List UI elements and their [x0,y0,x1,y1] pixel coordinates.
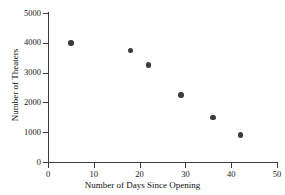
y-tick-label: 1000 [1,128,41,137]
x-tick-label: 10 [79,170,109,179]
x-tick-label: 30 [170,170,200,179]
x-axis-title: Number of Days Since Opening [0,180,285,190]
data-point [210,115,215,120]
scatter-plot-figure: 010002000300040005000 01020304050 Number… [0,0,285,195]
y-tick-label: 3000 [1,68,41,77]
data-point [238,132,243,137]
y-axis-title: Number of Theaters [10,15,20,155]
x-tick-label: 40 [216,170,246,179]
y-tick-label: 2000 [1,98,41,107]
x-tick-mark [277,163,278,168]
x-tick-mark [185,163,186,168]
data-point [128,48,133,53]
y-tick-label: 0 [1,158,41,167]
y-axis-tick-labels: 010002000300040005000 [0,0,41,195]
plot-area [48,13,277,162]
x-tick-label: 0 [33,170,63,179]
x-tick-label: 50 [262,170,285,179]
x-axis-line [48,162,278,163]
x-tick-mark [231,163,232,168]
data-point [178,92,183,97]
x-tick-mark [140,163,141,168]
x-tick-label: 20 [125,170,155,179]
y-tick-label: 5000 [1,9,41,18]
data-point [68,40,73,45]
y-tick-label: 4000 [1,38,41,47]
data-point [146,62,151,67]
x-tick-mark [48,163,49,168]
x-tick-mark [94,163,95,168]
